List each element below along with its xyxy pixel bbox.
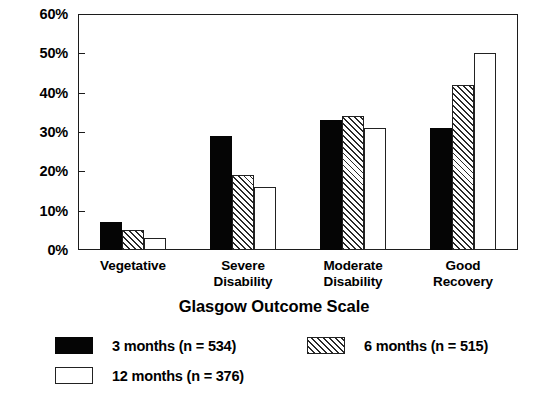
x-axis-label-line: Vegetative xyxy=(78,258,188,274)
bar-12-months-severe-disability xyxy=(254,187,276,250)
y-axis-tick-label: 40% xyxy=(22,85,68,101)
y-axis-tick-mark xyxy=(78,211,85,212)
plot-area xyxy=(78,14,518,250)
y-axis-tick-mark xyxy=(78,171,85,172)
chart-legend: 3 months (n = 534)6 months (n = 515)12 m… xyxy=(55,337,525,392)
x-axis-label-line: Moderate xyxy=(298,258,408,274)
y-axis-tick-mark xyxy=(78,93,85,94)
bar-6-months-vegetative xyxy=(122,230,144,250)
x-axis-label-line: Recovery xyxy=(408,274,518,290)
bar-12-months-moderate-disability xyxy=(364,128,386,250)
legend-swatch-hatch xyxy=(307,337,345,354)
bar-6-months-moderate-disability xyxy=(342,116,364,250)
bar-3-months-severe-disability xyxy=(210,136,232,250)
bar-chart-figure: 0%10%20%30%40%50%60% VegetativeSevereDis… xyxy=(0,0,548,395)
legend-swatch-solid xyxy=(55,337,93,354)
legend-item: 12 months (n = 376) xyxy=(55,367,244,384)
y-axis-tick-mark xyxy=(78,53,85,54)
y-axis-tick-label: 0% xyxy=(22,242,68,258)
bars-layer xyxy=(78,14,518,250)
y-axis-tick-label: 60% xyxy=(22,6,68,22)
y-axis-tick-label: 50% xyxy=(22,45,68,61)
x-axis-label-severe-disability: SevereDisability xyxy=(188,258,298,290)
bar-6-months-good-recovery xyxy=(452,85,474,250)
legend-swatch-open xyxy=(55,367,93,384)
legend-item: 3 months (n = 534) xyxy=(55,337,236,354)
x-axis-label-line: Disability xyxy=(298,274,408,290)
bar-3-months-vegetative xyxy=(100,222,122,250)
x-axis-label-line: Severe xyxy=(188,258,298,274)
bar-12-months-vegetative xyxy=(144,238,166,250)
legend-item: 6 months (n = 515) xyxy=(307,337,488,354)
y-axis-tick-mark xyxy=(78,132,85,133)
bar-6-months-severe-disability xyxy=(232,175,254,250)
y-axis-tick-label: 20% xyxy=(22,163,68,179)
y-axis-tick-label: 30% xyxy=(22,124,68,140)
y-axis-tick-label: 10% xyxy=(22,203,68,219)
legend-label: 12 months (n = 376) xyxy=(112,368,244,384)
x-axis-label-good-recovery: GoodRecovery xyxy=(408,258,518,290)
legend-label: 3 months (n = 534) xyxy=(112,338,236,354)
x-axis-label-moderate-disability: ModerateDisability xyxy=(298,258,408,290)
legend-label: 6 months (n = 515) xyxy=(364,338,488,354)
x-axis-title: Glasgow Outcome Scale xyxy=(0,297,548,316)
x-axis-label-line: Good xyxy=(408,258,518,274)
bar-3-months-good-recovery xyxy=(430,128,452,250)
x-axis-label-line: Disability xyxy=(188,274,298,290)
x-axis-label-vegetative: Vegetative xyxy=(78,258,188,274)
bar-12-months-good-recovery xyxy=(474,53,496,250)
bar-3-months-moderate-disability xyxy=(320,120,342,250)
